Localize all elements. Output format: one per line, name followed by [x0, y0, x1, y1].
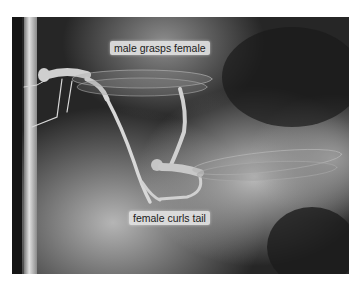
annotation-female-curls-tail: female curls tail	[129, 211, 210, 225]
photo-illustration	[12, 17, 349, 274]
damselfly-photo: male grasps female female curls tail	[12, 17, 349, 274]
annotation-male-grasps-female: male grasps female	[110, 41, 210, 55]
plant-stem	[24, 17, 37, 274]
